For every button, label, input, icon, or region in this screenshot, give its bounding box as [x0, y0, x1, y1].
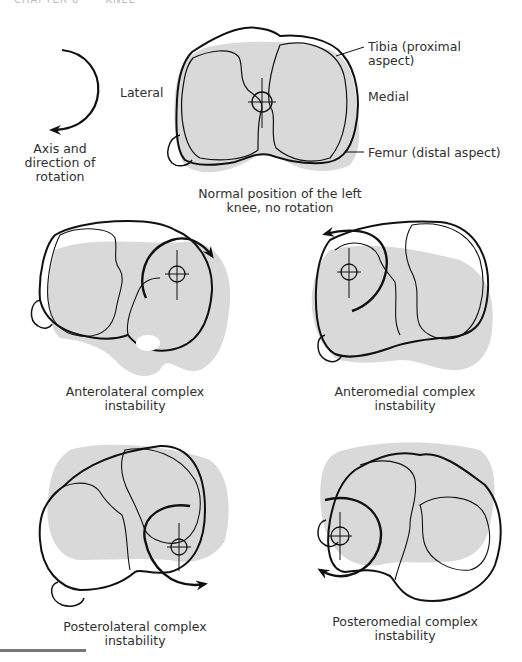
caption-line-2: instability: [320, 399, 490, 413]
caption-line-1: Anterolateral complex: [50, 385, 220, 399]
tibia-label: Tibia (proximal aspect): [368, 40, 461, 68]
anteromedial-figure: [312, 222, 493, 371]
rotation-arrow-icon: [52, 50, 98, 130]
caption-line-2: instability: [50, 399, 220, 413]
legend-line-2: direction of: [20, 156, 100, 170]
legend-line-3: rotation: [20, 170, 100, 184]
caption-line-1: Posterolateral complex: [50, 620, 220, 634]
posteromedial-caption: Posteromedial complex instability: [320, 615, 490, 643]
normal-knee-caption: Normal position of the left knee, no rot…: [180, 187, 380, 215]
knee-rotation-diagram: [0, 0, 522, 662]
posteromedial-figure: [318, 443, 501, 601]
posterolateral-caption: Posterolateral complex instability: [50, 620, 220, 648]
posterolateral-figure: [40, 445, 229, 606]
normal-knee-figure: [168, 28, 364, 173]
legend-line-1: Axis and: [20, 142, 100, 156]
femur-shape: [174, 42, 359, 173]
rotation-legend-label: Axis and direction of rotation: [20, 142, 100, 184]
caption-line-1: Normal position of the left: [180, 187, 380, 201]
tibia-label-line-2: aspect): [368, 54, 461, 68]
caption-line-1: Anteromedial complex: [320, 385, 490, 399]
medial-label: Medial: [368, 90, 409, 104]
tibia-label-line-1: Tibia (proximal: [368, 40, 461, 54]
lateral-label: Lateral: [120, 86, 164, 100]
footer-rule: [0, 649, 86, 652]
caption-line-2: instability: [50, 634, 220, 648]
caption-line-1: Posteromedial complex: [320, 615, 490, 629]
anterolateral-caption: Anterolateral complex instability: [50, 385, 220, 413]
femur-label: Femur (distal aspect): [368, 146, 501, 160]
anterolateral-figure: [31, 221, 230, 376]
caption-line-2: instability: [320, 629, 490, 643]
anteromedial-caption: Anteromedial complex instability: [320, 385, 490, 413]
caption-line-2: knee, no rotation: [180, 201, 380, 215]
